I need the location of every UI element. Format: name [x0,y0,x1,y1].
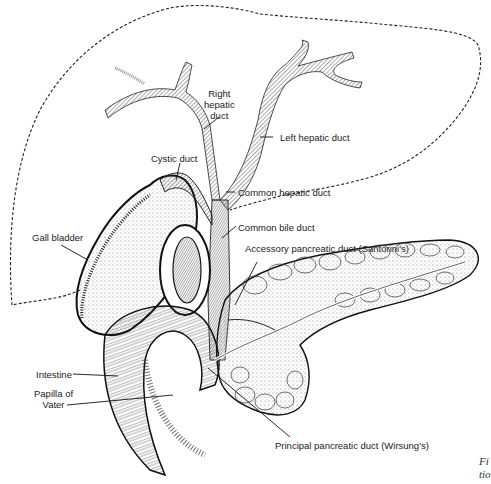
label-right-hepatic-duct-line3: duct [204,110,235,121]
label-common-bile-duct: Common bile duct [238,222,315,233]
label-principal-pancreatic-duct: Principal pancreatic duct (Wirsung's) [275,440,429,451]
label-gall-bladder: Gall bladder [32,232,83,243]
label-right-hepatic-duct-line1: Right [204,88,235,99]
intestine-shape [104,306,219,475]
label-right-hepatic-duct: Right hepatic duct [204,88,235,121]
label-common-hepatic-duct: Common hepatic duct [238,187,330,198]
label-intestine: Intestine [36,369,72,380]
figure-caption-fragment: Fi tio [479,455,491,481]
label-left-hepatic-duct: Left hepatic duct [280,132,350,143]
pancreas-shape [217,240,478,415]
label-accessory-pancreatic-duct: Accessory pancreatic duct (Santorini's) [245,243,409,254]
left-hepatic-duct-shape [220,40,362,210]
label-papilla-line2: Vater [34,399,73,410]
label-papilla-of-vater: Papilla of Vater [34,388,73,410]
label-papilla-line1: Papilla of [34,388,73,399]
caption-line2: tio [479,468,491,481]
label-right-hepatic-duct-line2: hepatic [204,99,235,110]
caption-line1: Fi [479,455,491,468]
label-cystic-duct: Cystic duct [151,153,197,164]
